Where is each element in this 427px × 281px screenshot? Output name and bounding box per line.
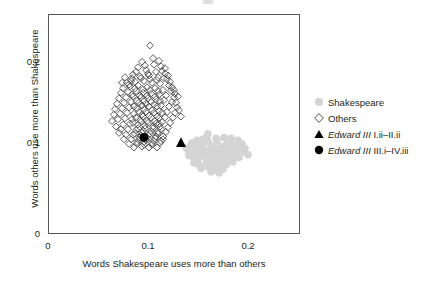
data-point [109,118,116,125]
series-2 [176,137,186,147]
legend-label-italic-title-2: Edward III [328,145,371,156]
data-point [215,169,223,177]
data-point [140,133,149,142]
legend-item-shakespeare: Shakespeare [312,95,427,109]
data-point [147,42,154,49]
circle-filled-black-icon [312,144,326,156]
data-point [176,137,186,147]
legend-item-edward-iii-second: Edward III III.i–IV.iii [312,143,427,157]
data-point [185,152,193,160]
plot-data-layer [48,14,300,234]
data-point [188,139,196,147]
data-point [207,168,215,176]
legend-item-others: Others [312,111,427,125]
legend-label-italic-title-1: Edward III [328,129,371,140]
cropped-title-artifact [203,0,213,4]
data-point [204,130,212,138]
series-0 [182,130,252,177]
data-point [233,147,241,155]
y-axis-label: Words others use more than Shakespeare [29,0,40,245]
scatter-plot-figure: 0 0.1 0.2 0 0.1 0.2 Words Shakespeare us… [0,0,427,281]
data-point [113,123,120,130]
data-point [201,138,209,146]
data-point [244,151,252,159]
legend-item-edward-iii-first: Edward III I.ii–II.ii [312,127,427,141]
x-tick-label-1: 0.1 [133,240,163,251]
data-point [178,113,185,120]
data-point [139,58,146,65]
triangle-filled-icon [312,128,326,140]
legend-label-scenes-2: III.i–IV.iii [371,145,409,156]
data-point [208,149,216,157]
data-point [221,156,229,164]
legend-label-edward-iii-second: Edward III III.i–IV.iii [328,145,408,156]
x-tick-label-2: 0.2 [233,240,263,251]
data-point [154,144,161,151]
legend-label-scenes-1: I.ii–II.ii [371,129,401,140]
legend-label-others: Others [328,113,357,124]
data-point [212,135,220,143]
data-point [225,139,233,147]
x-axis-label: Words Shakespeare uses more than others [48,258,300,269]
data-point [235,154,243,162]
data-point [157,80,164,87]
legend: Shakespeare Others Edward III I.ii–II.ii [312,95,427,159]
data-point [206,157,214,165]
data-point [190,159,198,167]
circle-filled-gray-icon [312,96,326,108]
legend-label-edward-iii-first: Edward III I.ii–II.ii [328,129,400,140]
legend-label-shakespeare: Shakespeare [328,97,384,108]
series-3 [140,133,149,142]
data-point [241,145,249,153]
data-point [229,158,237,166]
diamond-open-icon [312,112,326,124]
data-point [197,165,205,173]
